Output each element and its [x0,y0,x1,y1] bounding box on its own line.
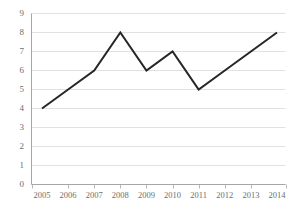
y-axis-labels: 0123456789 [20,8,25,189]
x-axis-tick-label: 2013 [242,190,259,200]
y-axis-tick-label: 8 [20,27,25,37]
line-chart: 0123456789 20052006200720082009201020112… [0,0,308,212]
chart-canvas: 0123456789 20052006200720082009201020112… [0,0,308,212]
x-axis-tick-marks [33,185,287,189]
x-axis-tick-label: 2005 [34,190,51,200]
y-axis-tick-label: 0 [20,179,25,189]
x-axis-labels: 2005200620072008200920102011201220132014 [34,190,287,200]
y-axis-tick-label: 4 [20,103,25,113]
x-axis-tick-label: 2009 [138,190,155,200]
gridlines [32,14,286,185]
x-axis-tick-label: 2007 [86,190,103,200]
x-axis-tick-label: 2008 [112,190,129,200]
y-axis-tick-label: 6 [20,65,25,75]
y-axis-tick-label: 1 [20,160,25,170]
y-axis-tick-label: 2 [20,141,25,151]
x-axis-tick-label: 2012 [216,190,233,200]
y-axis-tick-label: 3 [20,122,25,132]
y-axis-tick-label: 7 [20,46,25,56]
y-axis-tick-label: 5 [20,84,25,94]
x-axis-tick-label: 2006 [60,190,77,200]
x-axis-tick-label: 2010 [164,190,181,200]
x-axis-tick-label: 2014 [269,190,287,200]
x-axis-tick-label: 2011 [190,190,207,200]
y-axis-tick-label: 9 [20,8,25,18]
